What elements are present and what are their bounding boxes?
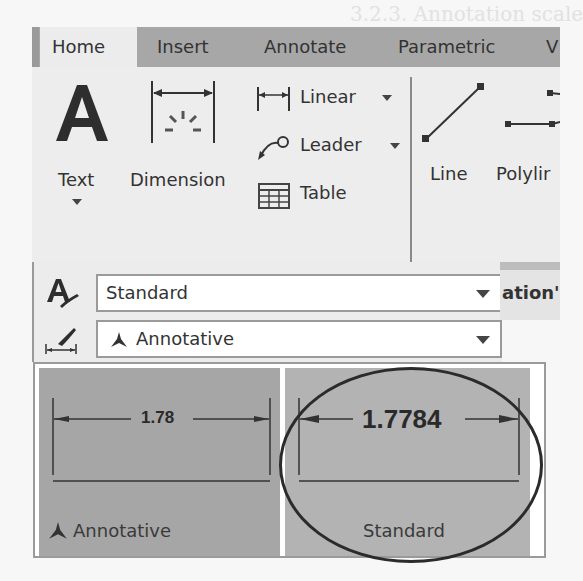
leader-label: Leader [300,134,362,155]
style-panel: Standard Annotative [32,262,502,362]
line-button[interactable]: Line [420,79,486,189]
linear-label: Linear [300,86,356,107]
dimension-button[interactable]: Dimension [122,79,252,209]
leader-icon [256,133,292,161]
tab-parametric[interactable]: Parametric [388,27,505,67]
tab-insert[interactable]: Insert [147,27,219,67]
dimension-icon [148,79,218,147]
leader-button[interactable]: Leader [256,133,406,163]
tab-bar-edge [32,27,39,67]
tab-annotate[interactable]: Annotate [254,27,356,67]
gallery-item-label: Standard [363,520,445,541]
line-button-label: Line [430,163,468,184]
background-text: 3.2.3. Annotation scale [350,2,583,26]
dimension-value: 1.78 [141,408,174,428]
text-style-value: Standard [106,282,188,303]
linear-dropdown-caret[interactable] [382,95,392,101]
dimension-style-icon [44,324,80,356]
gallery-item-annotative[interactable]: 1.78 Annotative [39,368,280,556]
polyline-icon [492,81,560,145]
dimension-value: 1.7784 [362,404,442,435]
clipped-panel-title-text: ation' [502,282,560,303]
leader-dropdown-caret[interactable] [390,143,400,149]
dimension-style-value: Annotative [136,322,234,356]
table-button[interactable]: Table [256,181,376,211]
table-icon [258,183,290,209]
text-button[interactable]: Text [50,79,108,209]
dimension-style-gallery: 1.78 Annotative 1.7784 Standard [33,362,546,558]
tab-home[interactable]: Home [40,27,137,67]
linear-button[interactable]: Linear [256,85,406,115]
annotative-icon [48,521,68,541]
text-style-icon [46,278,80,310]
text-dropdown-caret[interactable] [72,199,82,205]
linear-dimension-icon [256,85,292,113]
dimension-preview [39,368,280,488]
tab-view[interactable]: V [532,27,558,67]
polyline-button-label: Polylir [496,163,550,184]
table-label: Table [300,182,347,203]
clipped-panel-title: ation' [500,262,560,320]
dropdown-arrow-icon [476,290,490,298]
ribbon-tab-bar: Home Insert Annotate Parametric V [32,27,560,67]
annotative-icon [110,331,128,349]
line-icon [420,81,486,145]
dimension-style-dropdown[interactable]: Annotative [96,320,502,358]
panel-separator [410,77,412,262]
dimension-button-label: Dimension [130,169,226,190]
gallery-item-label: Annotative [73,520,171,541]
gallery-item-standard[interactable]: 1.7784 Standard [285,368,530,556]
dropdown-arrow-icon [476,336,490,344]
polyline-button[interactable]: Polylir [492,79,560,189]
text-button-label: Text [58,169,94,190]
text-style-dropdown[interactable]: Standard [96,274,502,312]
text-a-icon [52,83,112,143]
ribbon-panel: Text Dimension Linear [32,67,560,262]
